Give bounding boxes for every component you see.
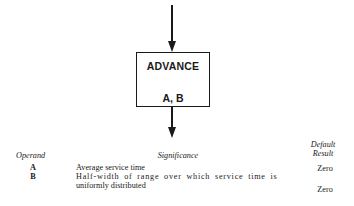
incoming-line — [171, 5, 173, 43]
outgoing-arrowhead-icon — [168, 127, 176, 138]
row-a-default: Zero — [312, 164, 338, 173]
row-a-significance: Average service time — [76, 163, 145, 172]
block-name: ADVANCE — [137, 60, 209, 72]
header-default-result: Default Result — [308, 140, 338, 158]
row-b-operand: B — [28, 172, 38, 181]
outgoing-line — [171, 107, 173, 129]
header-significance: Significance — [143, 151, 213, 160]
incoming-arrowhead-icon — [168, 41, 176, 52]
header-default-line1: Default — [308, 140, 338, 149]
row-b-default: Zero — [312, 185, 338, 194]
row-b-significance-line1: Half-width of range over which service t… — [76, 172, 278, 181]
block-operands: A, B — [137, 92, 209, 104]
row-b-significance-line2: uniformly distributed — [76, 181, 146, 190]
header-operand: Operand — [16, 151, 45, 160]
row-a-operand: A — [28, 163, 38, 172]
header-default-line2: Result — [308, 149, 338, 158]
advance-block: ADVANCE A, B — [136, 52, 210, 107]
